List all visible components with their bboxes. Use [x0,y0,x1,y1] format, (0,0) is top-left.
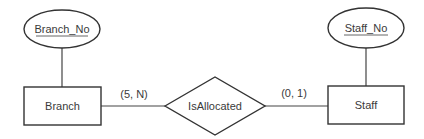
cardinality-branch: (5, N) [120,88,148,100]
entity-branch: Branch [24,87,101,125]
relationship-isallocated: IsAllocated [165,77,265,135]
attribute-branch-no-label: Branch_No [34,23,89,35]
cardinality-staff: (0, 1) [281,87,307,99]
attribute-branch-no: Branch_No [24,10,100,48]
entity-branch-label: Branch [45,100,80,112]
entity-staff-label: Staff [355,99,378,111]
entity-staff: Staff [328,86,404,124]
relationship-label: IsAllocated [188,100,242,112]
attribute-staff-no: Staff_No [328,8,404,48]
attribute-staff-no-label: Staff_No [345,22,388,34]
er-diagram: Branch_No Staff_No Branch Staff IsAlloca… [0,0,424,139]
